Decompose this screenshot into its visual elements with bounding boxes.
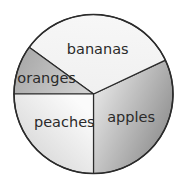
- pie-slice-peaches: [14, 94, 94, 174]
- slice-label-bananas: bananas: [67, 41, 129, 57]
- pie-chart: applesbananasorangespeaches: [0, 0, 181, 186]
- slice-label-apples: apples: [107, 109, 155, 125]
- slice-label-peaches: peaches: [34, 114, 95, 130]
- slice-label-oranges: oranges: [17, 70, 76, 86]
